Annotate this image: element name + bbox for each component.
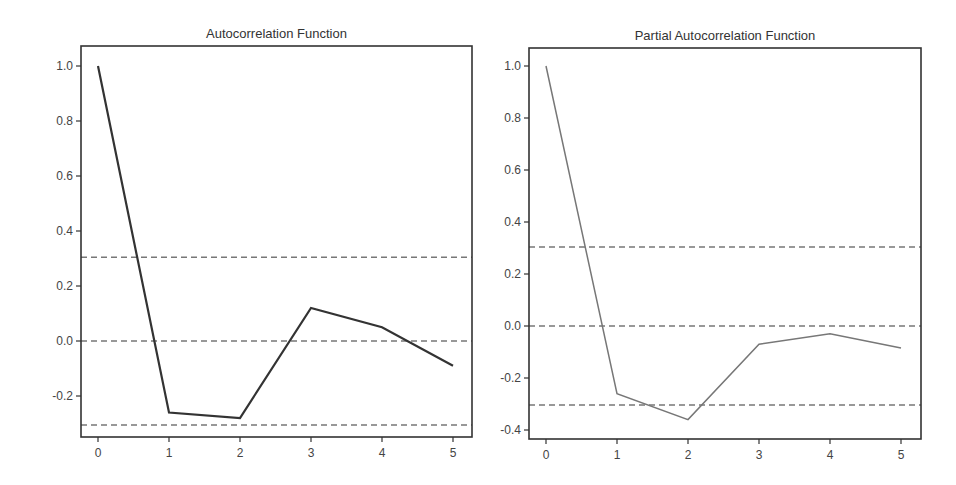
pacf-y-tick-label: 0.6 [504, 163, 521, 177]
acf-y-tick-label: 0.4 [56, 224, 73, 238]
acf-y-tick-label: 0.0 [56, 334, 73, 348]
acf-x-tick-label: 1 [166, 446, 173, 460]
pacf-y-tick-label: 1.0 [504, 59, 521, 73]
acf-x-tick-label: 3 [308, 446, 315, 460]
pacf-x-tick-label: 3 [756, 448, 763, 462]
pacf-y-tick-label: 0.2 [504, 267, 521, 281]
acf-y-tick-label: 0.6 [56, 169, 73, 183]
pacf-title: Partial Autocorrelation Function [635, 28, 816, 43]
acf-panel: Autocorrelation Function 1.00.80.60.40.2… [52, 26, 472, 460]
acf-y-tick-label: 0.8 [56, 114, 73, 128]
pacf-series-line [546, 66, 901, 420]
acf-title: Autocorrelation Function [206, 26, 347, 41]
acf-pacf-figure: Autocorrelation Function 1.00.80.60.40.2… [0, 0, 956, 485]
acf-x-tick-label: 0 [95, 446, 102, 460]
acf-x-tick-label: 2 [237, 446, 244, 460]
pacf-y-tick-label: 0.8 [504, 111, 521, 125]
pacf-x-tick-label: 2 [685, 448, 692, 462]
acf-y-tick-label: 0.2 [56, 279, 73, 293]
pacf-x-tick-label: 0 [543, 448, 550, 462]
pacf-y-tick-label: 0.4 [504, 215, 521, 229]
pacf-x-tick-label: 5 [898, 448, 905, 462]
acf-x-tick-label: 4 [379, 446, 386, 460]
acf-y-tick-label: -0.2 [52, 389, 73, 403]
pacf-y-tick-label: 0.0 [504, 319, 521, 333]
pacf-y-tick-label: -0.2 [500, 371, 521, 385]
acf-series-line [98, 66, 453, 418]
pacf-y-tick-label: -0.4 [500, 423, 521, 437]
pacf-panel: Partial Autocorrelation Function 1.00.80… [500, 28, 921, 462]
acf-plot-frame [81, 46, 472, 437]
pacf-x-tick-label: 4 [827, 448, 834, 462]
acf-y-tick-label: 1.0 [56, 59, 73, 73]
pacf-x-tick-label: 1 [614, 448, 621, 462]
figure-canvas: Autocorrelation Function 1.00.80.60.40.2… [0, 0, 956, 485]
acf-x-tick-label: 5 [450, 446, 457, 460]
